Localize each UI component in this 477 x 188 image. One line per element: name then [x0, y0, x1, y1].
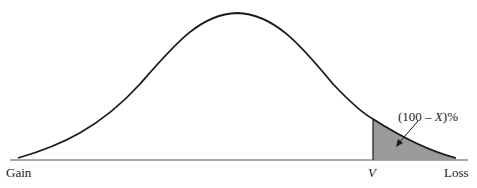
annotation-prefix: (100 – [398, 109, 435, 124]
v-label: V [368, 166, 376, 179]
annotation-suffix: )% [443, 109, 458, 124]
distribution-plot [0, 0, 477, 188]
annotation-var: X [435, 109, 443, 124]
tail-annotation: (100 – X)% [398, 110, 458, 123]
loss-label: Loss [444, 166, 469, 179]
gain-label: Gain [6, 166, 31, 179]
